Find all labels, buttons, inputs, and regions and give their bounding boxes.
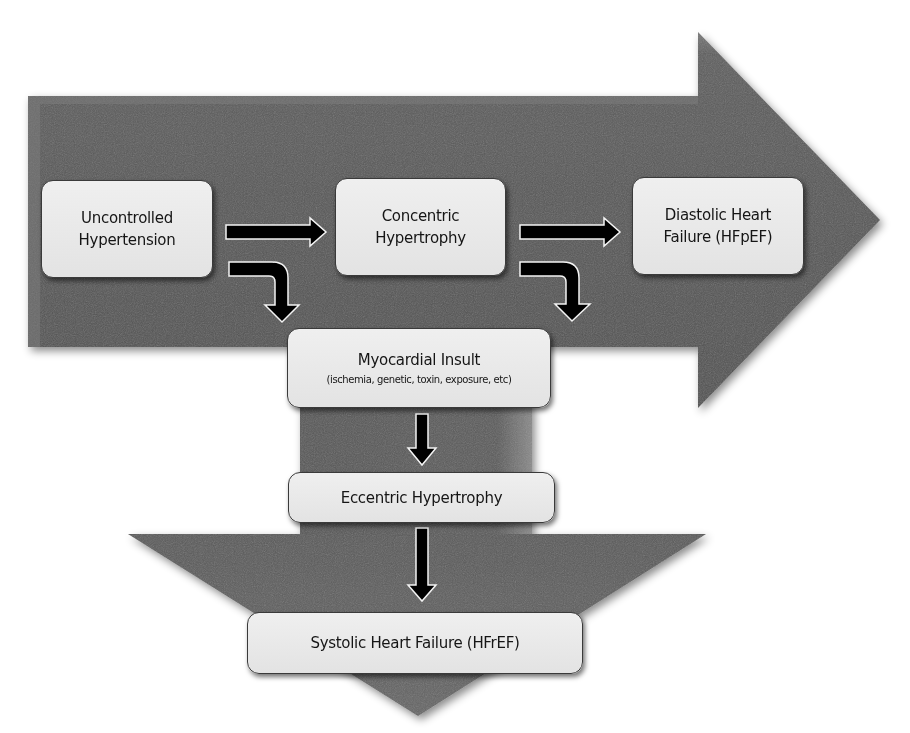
node-diastolic-heart-failure: Diastolic Heart Failure (HFpEF) bbox=[632, 177, 804, 275]
node-uncontrolled-hypertension: Uncontrolled Hypertension bbox=[41, 180, 213, 278]
node-eccentric-hypertrophy: Eccentric Hypertrophy bbox=[288, 472, 555, 523]
node-concentric-hypertrophy: Concentric Hypertrophy bbox=[335, 178, 506, 276]
node-label: Diastolic Heart bbox=[665, 204, 771, 226]
node-label: Hypertrophy bbox=[375, 227, 466, 249]
node-label: Concentric bbox=[382, 205, 460, 227]
node-label: Eccentric Hypertrophy bbox=[341, 487, 503, 509]
node-subtitle: (ischemia, genetic, toxin, exposure, etc… bbox=[327, 373, 512, 387]
node-myocardial-insult: Myocardial Insult (ischemia, genetic, to… bbox=[287, 328, 551, 408]
node-label: Systolic Heart Failure (HFrEF) bbox=[310, 632, 519, 654]
node-label: Myocardial Insult bbox=[358, 349, 480, 371]
node-systolic-heart-failure: Systolic Heart Failure (HFrEF) bbox=[247, 612, 583, 674]
node-label: Uncontrolled bbox=[81, 207, 173, 229]
node-label: Hypertension bbox=[79, 229, 176, 251]
node-label: Failure (HFpEF) bbox=[664, 226, 773, 248]
